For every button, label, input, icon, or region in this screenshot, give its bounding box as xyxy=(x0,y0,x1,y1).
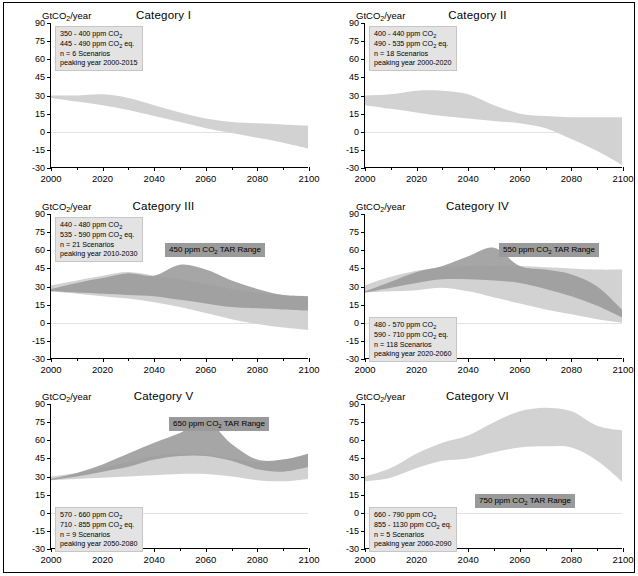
y-tick-label: -30 xyxy=(346,544,359,554)
y-tick-mark xyxy=(47,404,51,405)
y-tick-mark xyxy=(361,305,365,306)
y-tick-mark xyxy=(361,323,365,324)
y-tick-mark xyxy=(361,150,365,151)
info-line-co2eq-range: 490 - 535 ppm CO2 eq. xyxy=(374,39,452,49)
y-tick-mark xyxy=(361,268,365,269)
x-tick-label: 2020 xyxy=(406,554,427,565)
x-tick-major xyxy=(103,167,104,171)
x-tick-minor xyxy=(283,358,284,361)
y-tick-label: 60 xyxy=(349,435,359,445)
x-tick-label: 2020 xyxy=(406,364,427,375)
x-tick-major xyxy=(468,167,469,171)
y-tick-label: -15 xyxy=(32,526,45,536)
y-tick-label: 90 xyxy=(349,209,359,219)
x-tick-label: 2060 xyxy=(509,554,530,565)
y-tick-mark xyxy=(47,150,51,151)
scenario-info-box: 660 - 790 ppm CO2855 - 1130 ppm CO2 eq.n… xyxy=(369,507,457,552)
y-tick-mark xyxy=(361,404,365,405)
x-tick-minor xyxy=(77,358,78,361)
x-tick-minor xyxy=(546,548,547,551)
y-tick-label: 60 xyxy=(35,54,45,64)
x-tick-label: 2040 xyxy=(458,554,479,565)
x-tick-label: 2000 xyxy=(40,364,61,375)
x-tick-minor xyxy=(546,358,547,361)
y-tick-mark xyxy=(361,96,365,97)
x-tick-label: 2000 xyxy=(40,173,61,184)
x-tick-label: 2000 xyxy=(354,173,375,184)
x-tick-major xyxy=(365,167,366,171)
scenario-range-band xyxy=(365,408,622,483)
x-tick-minor xyxy=(180,548,181,551)
y-tick-mark xyxy=(47,305,51,306)
x-tick-label: 2100 xyxy=(612,173,633,184)
y-tick-label: 45 xyxy=(349,453,359,463)
info-line-scenarios: n = 9 Scenarios xyxy=(60,530,138,539)
x-tick-label: 2080 xyxy=(247,173,268,184)
plot-area-category-1: 9075604530150-15-30200020202040206020802… xyxy=(50,23,308,168)
x-tick-major xyxy=(154,358,155,362)
y-tick-mark xyxy=(47,477,51,478)
y-tick-label: -30 xyxy=(346,354,359,364)
scenario-info-box: 400 - 440 ppm CO2490 - 535 ppm CO2 eq.n … xyxy=(369,26,457,71)
y-tick-label: 45 xyxy=(35,263,45,273)
x-tick-major xyxy=(468,358,469,362)
x-tick-label: 2040 xyxy=(458,364,479,375)
y-tick-label: 15 xyxy=(35,109,45,119)
y-tick-mark xyxy=(47,422,51,423)
y-tick-label: 30 xyxy=(35,472,45,482)
info-line-co2eq-range: 710 - 855 ppm CO2 eq. xyxy=(60,520,138,530)
x-tick-label: 2080 xyxy=(247,554,268,565)
x-tick-major xyxy=(206,548,207,552)
x-tick-major xyxy=(206,167,207,171)
tar-range-label: 650 ppm CO2 TAR Range xyxy=(169,417,269,431)
x-tick-major xyxy=(520,358,521,362)
emissions-scenarios-figure: Category IGtCO2/year9075604530150-15-302… xyxy=(0,0,638,576)
x-tick-minor xyxy=(180,358,181,361)
x-tick-label: 2100 xyxy=(612,364,633,375)
y-tick-mark xyxy=(361,77,365,78)
info-line-peaking-year: peaking year 2050-2080 xyxy=(60,539,138,548)
y-tick-mark xyxy=(361,250,365,251)
x-tick-minor xyxy=(494,548,495,551)
x-tick-major xyxy=(103,358,104,362)
x-tick-label: 2060 xyxy=(195,364,216,375)
y-tick-label: -15 xyxy=(346,336,359,346)
info-line-co2eq-range: 855 - 1130 ppm CO2 eq. xyxy=(374,520,452,530)
y-tick-mark xyxy=(47,458,51,459)
y-tick-mark xyxy=(47,250,51,251)
y-tick-mark xyxy=(47,341,51,342)
x-tick-major xyxy=(309,548,310,552)
y-tick-label: 60 xyxy=(35,435,45,445)
y-tick-label: 45 xyxy=(35,72,45,82)
x-tick-major xyxy=(257,167,258,171)
x-tick-minor xyxy=(180,167,181,170)
y-tick-label: 75 xyxy=(349,417,359,427)
y-tick-label: 60 xyxy=(349,245,359,255)
x-tick-label: 2000 xyxy=(40,554,61,565)
info-line-scenarios: n = 6 Scenarios xyxy=(60,49,138,58)
y-tick-mark xyxy=(47,114,51,115)
info-line-co2-range: 570 - 660 ppm CO2 xyxy=(60,510,138,520)
y-tick-mark xyxy=(361,287,365,288)
x-tick-label: 2040 xyxy=(458,173,479,184)
info-line-co2-range: 480 - 570 ppm CO2 xyxy=(374,320,452,330)
x-tick-minor xyxy=(442,167,443,170)
x-tick-label: 2100 xyxy=(298,364,319,375)
x-tick-label: 2100 xyxy=(298,554,319,565)
x-tick-major xyxy=(154,548,155,552)
info-line-peaking-year: peaking year 2010-2030 xyxy=(60,249,138,258)
plot-area-category-5: 9075604530150-15-30200020202040206020802… xyxy=(50,404,308,549)
x-tick-label: 2100 xyxy=(298,173,319,184)
x-tick-major xyxy=(468,548,469,552)
y-tick-label: 90 xyxy=(35,399,45,409)
y-tick-label: 90 xyxy=(349,399,359,409)
y-tick-mark xyxy=(361,59,365,60)
info-line-co2-range: 350 - 400 ppm CO2 xyxy=(60,29,138,39)
x-tick-minor xyxy=(283,167,284,170)
x-tick-label: 2020 xyxy=(92,554,113,565)
y-tick-mark xyxy=(361,23,365,24)
y-tick-mark xyxy=(47,268,51,269)
y-tick-mark xyxy=(47,287,51,288)
tar-range-label: 750 ppm CO2 TAR Range xyxy=(475,494,575,508)
info-line-co2-range: 400 - 440 ppm CO2 xyxy=(374,29,452,39)
